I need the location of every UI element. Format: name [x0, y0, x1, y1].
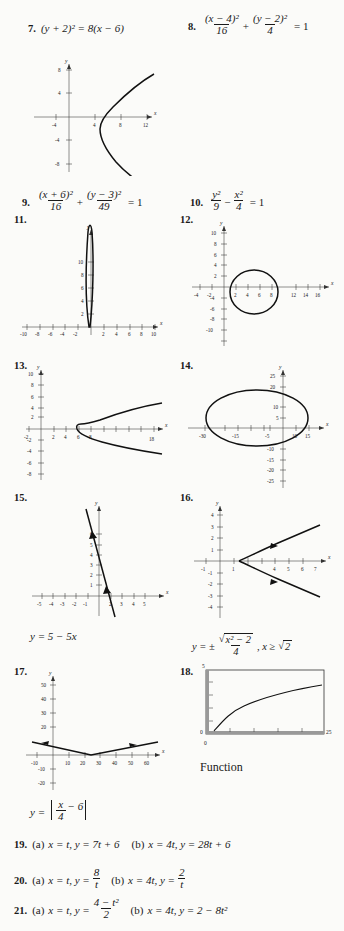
- label-problem-18-function: Function: [200, 760, 243, 775]
- problem-10-statement: 10. y² 9 − x² 4 = 1: [190, 190, 264, 214]
- problem-21-part-b-label: (b): [131, 904, 144, 916]
- svg-text:-4: -4: [27, 448, 32, 454]
- svg-text:3: 3: [211, 524, 214, 530]
- problem-9-operator: +: [77, 196, 83, 208]
- svg-text:x: x: [165, 589, 169, 595]
- svg-text:-5: -5: [265, 433, 270, 439]
- svg-text:0: 0: [204, 740, 207, 746]
- svg-text:-10: -10: [38, 766, 45, 772]
- svg-text:12: 12: [143, 122, 149, 128]
- svg-text:-3: -3: [208, 593, 213, 599]
- svg-text:8: 8: [119, 122, 122, 128]
- problem-21-number: 21.: [14, 905, 27, 916]
- svg-text:14: 14: [303, 292, 309, 298]
- svg-text:-15: -15: [232, 433, 239, 439]
- svg-text:-10: -10: [20, 331, 27, 337]
- problem-19-part-b-label: (b): [132, 838, 145, 850]
- svg-text:-10: -10: [206, 327, 213, 333]
- svg-text:-6: -6: [27, 460, 32, 466]
- problem-7-number: 7.: [28, 23, 36, 34]
- svg-text:10: 10: [151, 331, 157, 337]
- svg-text:6: 6: [301, 566, 304, 572]
- problem-10-equals: = 1: [250, 196, 264, 208]
- svg-text:-5: -5: [37, 601, 42, 607]
- svg-text:-30: -30: [199, 433, 206, 439]
- svg-text:4: 4: [64, 434, 67, 440]
- svg-text:x: x: [330, 280, 334, 286]
- svg-text:30: 30: [41, 710, 47, 716]
- svg-text:20: 20: [270, 384, 276, 390]
- svg-text:5: 5: [202, 664, 205, 669]
- svg-text:x: x: [325, 421, 329, 427]
- svg-text:6: 6: [214, 252, 217, 258]
- problem-19-part-a: x = t, y = 7t + 6: [48, 838, 119, 850]
- problem-19-number: 19.: [14, 839, 27, 850]
- graph-problem-15: x y -5 -4 -3 -2 -1 2 3 4 5: [24, 498, 174, 620]
- problem-19-part-b: x = 4t, y = 28t + 6: [148, 838, 230, 850]
- svg-text:10: 10: [211, 230, 217, 236]
- svg-text:-25: -25: [267, 478, 274, 484]
- svg-text:-8: -8: [55, 161, 60, 167]
- problem-7-equation: (y + 2)² = 8(x − 6): [41, 22, 124, 34]
- svg-text:4: 4: [90, 552, 93, 558]
- svg-text:18: 18: [149, 436, 155, 442]
- problem-20-statement: 20. (a) x = t, y = 8 t (b) x = 4t, y = 2…: [14, 868, 189, 892]
- svg-text:x: x: [161, 748, 165, 754]
- svg-text:1: 1: [90, 582, 93, 588]
- svg-text:8: 8: [270, 292, 273, 298]
- svg-text:3: 3: [90, 562, 93, 568]
- problem-10-number: 10.: [190, 197, 203, 208]
- problem-21-part-b: x = 4t, y = 2 − 8t²: [147, 904, 227, 916]
- svg-text:8: 8: [81, 272, 84, 278]
- problem-20-number: 20.: [14, 875, 27, 886]
- svg-text:-1: -1: [201, 566, 206, 572]
- problem-20-part-b-fraction: 2 t: [177, 867, 187, 891]
- svg-text:-4: -4: [210, 295, 215, 301]
- svg-text:-2: -2: [73, 331, 78, 337]
- svg-text:-1: -1: [208, 570, 213, 576]
- problem-8-operator: +: [243, 20, 249, 32]
- problem-20-part-a-fraction: 8 t: [92, 867, 102, 891]
- problem-9-equals: = 1: [128, 196, 142, 208]
- svg-text:-10: -10: [267, 446, 274, 452]
- svg-text:4: 4: [58, 90, 61, 96]
- svg-text:6: 6: [128, 331, 131, 337]
- svg-text:40: 40: [112, 760, 118, 766]
- problem-21-part-a-label: (a): [32, 904, 44, 916]
- svg-text:5: 5: [143, 601, 146, 607]
- svg-text:2: 2: [234, 292, 237, 298]
- graph-problem-16: x y -1 1 4 5 6 7 4 3: [186, 498, 336, 622]
- svg-text:16: 16: [315, 292, 321, 298]
- svg-text:10: 10: [78, 259, 84, 265]
- svg-text:4: 4: [115, 331, 118, 337]
- graph-problem-14: x y -30 -15 -5 10 15 25 20: [180, 362, 336, 490]
- svg-text:10: 10: [273, 404, 279, 410]
- svg-text:25: 25: [270, 373, 276, 379]
- problem-20-part-b-label: (b): [111, 874, 124, 886]
- svg-text:4: 4: [132, 601, 135, 607]
- svg-text:x: x: [164, 422, 168, 428]
- problem-18-label: 18.: [180, 666, 193, 677]
- svg-text:6: 6: [81, 285, 84, 291]
- problem-21-part-a-fraction: 4 − t² 2: [92, 897, 121, 921]
- caption-17-fraction: x 4: [56, 799, 66, 823]
- svg-text:4: 4: [93, 122, 96, 128]
- svg-text:-1: -1: [83, 601, 88, 607]
- problem-19-part-a-label: (a): [32, 838, 44, 850]
- svg-text:-4: -4: [52, 122, 57, 128]
- problem-19-statement: 19. (a) x = t, y = 7t + 6 (b) x = 4t, y …: [14, 838, 230, 850]
- svg-text:-4: -4: [49, 601, 54, 607]
- svg-text:y: y: [94, 500, 98, 506]
- caption-problem-15: y = 5 − 5x: [30, 630, 77, 642]
- svg-text:-6: -6: [210, 306, 215, 312]
- svg-text:8: 8: [58, 67, 61, 73]
- svg-text:3: 3: [120, 601, 123, 607]
- svg-text:1: 1: [211, 547, 214, 553]
- problem-8-fraction-1: (x − 4)² 16: [203, 13, 241, 37]
- svg-text:y: y: [215, 500, 219, 506]
- svg-text:8: 8: [214, 241, 217, 247]
- svg-text:6: 6: [77, 434, 80, 440]
- problem-10-operator: −: [224, 196, 230, 208]
- svg-text:60: 60: [144, 760, 150, 766]
- svg-text:30: 30: [96, 760, 102, 766]
